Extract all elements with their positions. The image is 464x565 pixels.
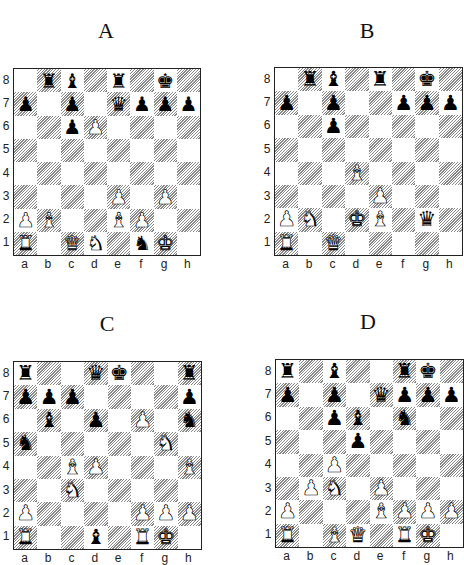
- square-g8: ♚: [154, 69, 177, 92]
- white-pawn-icon: ♟: [156, 187, 174, 207]
- square-h3: [177, 185, 200, 208]
- square-d5: [84, 432, 107, 455]
- rank-label-2: 2: [262, 212, 272, 226]
- rank-label-6: 6: [263, 410, 273, 424]
- square-f2: ♟: [130, 209, 153, 232]
- white-pawn-icon: ♟: [180, 503, 199, 524]
- square-a8: ♜: [276, 360, 299, 383]
- square-b2: ♞: [298, 208, 321, 231]
- file-label-d: d: [84, 257, 104, 271]
- square-f5: [130, 139, 153, 162]
- black-pawn-icon: ♟: [16, 387, 35, 408]
- square-d2: ♚: [345, 208, 368, 231]
- square-e1: [107, 232, 130, 255]
- square-e4: [108, 456, 131, 479]
- square-a6: [14, 409, 37, 432]
- square-c3: ♞: [323, 477, 346, 500]
- square-c6: ♟: [323, 407, 346, 430]
- square-d5: [345, 138, 368, 161]
- square-e4: [369, 162, 392, 185]
- square-d6: ♟: [84, 116, 107, 139]
- white-bishop-icon: ♝: [372, 501, 391, 522]
- square-d7: [345, 91, 368, 114]
- square-d7: [84, 92, 107, 115]
- white-rook-icon: ♜: [395, 525, 414, 546]
- square-c4: [322, 162, 345, 185]
- white-pawn-icon: ♟: [110, 187, 128, 207]
- rank-label-6: 6: [1, 119, 11, 133]
- white-rook-icon: ♜: [16, 527, 35, 548]
- square-f3: [131, 479, 154, 502]
- square-e4: [107, 162, 130, 185]
- square-c7: ♟: [322, 91, 345, 114]
- square-f3: [393, 477, 416, 500]
- square-b7: [298, 91, 321, 114]
- white-rook-icon: ♜: [277, 233, 296, 254]
- black-knight-icon: ♞: [395, 408, 414, 429]
- rank-label-4: 4: [1, 459, 11, 473]
- square-e8: ♜: [107, 69, 130, 92]
- file-label-d: d: [85, 551, 105, 565]
- white-bishop-icon: ♝: [371, 209, 390, 230]
- black-rook-icon: ♜: [110, 71, 128, 91]
- rank-label-5: 5: [1, 142, 11, 156]
- white-pawn-icon: ♟: [372, 478, 391, 499]
- board-grid-c: ♜♛♚♜♟♟♟♟♝♟♟♞♞♞♝♟♝♞♟♟♟♟♜♝♜♚: [13, 361, 202, 550]
- square-b3: ♟: [299, 477, 322, 500]
- square-a7: ♟: [275, 91, 298, 114]
- white-knight-icon: ♞: [301, 209, 320, 230]
- square-b7: ♟: [37, 385, 60, 408]
- rank-label-3: 3: [263, 481, 273, 495]
- board-label-c: C: [100, 313, 115, 335]
- square-f8: [392, 68, 415, 91]
- file-label-e: e: [108, 551, 128, 565]
- file-label-c: c: [322, 257, 342, 271]
- rank-label-8: 8: [263, 364, 273, 378]
- square-a1: ♜: [275, 232, 298, 255]
- square-d3: [84, 185, 107, 208]
- square-c8: ♝: [61, 69, 84, 92]
- square-c4: ♟: [323, 454, 346, 477]
- square-a1: ♜: [276, 524, 299, 547]
- square-e7: ♛: [107, 92, 130, 115]
- black-rook-icon: ♜: [371, 69, 390, 90]
- square-c8: ♝: [322, 68, 345, 91]
- square-c8: [61, 362, 84, 385]
- square-b3: [37, 185, 60, 208]
- square-b8: ♜: [298, 68, 321, 91]
- square-d8: [84, 69, 107, 92]
- square-g7: ♟: [415, 91, 438, 114]
- square-a4: [14, 162, 37, 185]
- black-pawn-icon: ♟: [63, 387, 82, 408]
- square-f7: [131, 385, 154, 408]
- square-g1: [415, 232, 438, 255]
- white-rook-icon: ♜: [278, 525, 297, 546]
- black-pawn-icon: ♟: [442, 385, 461, 406]
- square-b5: [37, 139, 60, 162]
- black-pawn-icon: ♟: [179, 94, 197, 114]
- square-b4: [298, 162, 321, 185]
- square-c3: [61, 185, 84, 208]
- square-b8: ♜: [37, 69, 60, 92]
- black-pawn-icon: ♟: [86, 410, 105, 431]
- square-c7: ♟: [61, 385, 84, 408]
- white-bishop-icon: ♝: [40, 210, 58, 230]
- black-queen-icon: ♛: [372, 385, 391, 406]
- square-f1: ♜: [131, 526, 154, 549]
- black-king-icon: ♚: [156, 71, 174, 91]
- square-d5: ♟: [346, 430, 369, 453]
- square-e8: ♜: [369, 68, 392, 91]
- white-pawn-icon: ♟: [157, 503, 176, 524]
- square-g4: [415, 162, 438, 185]
- white-pawn-icon: ♟: [86, 457, 105, 478]
- square-e7: ♛: [370, 383, 393, 406]
- square-b5: [298, 138, 321, 161]
- square-a6: [14, 116, 37, 139]
- black-pawn-icon: ♟: [325, 408, 344, 429]
- black-pawn-icon: ♟: [441, 93, 460, 114]
- square-g5: [154, 139, 177, 162]
- square-c8: ♝: [323, 360, 346, 383]
- square-c4: [61, 162, 84, 185]
- square-g2: ♟: [416, 500, 439, 523]
- square-d4: [84, 162, 107, 185]
